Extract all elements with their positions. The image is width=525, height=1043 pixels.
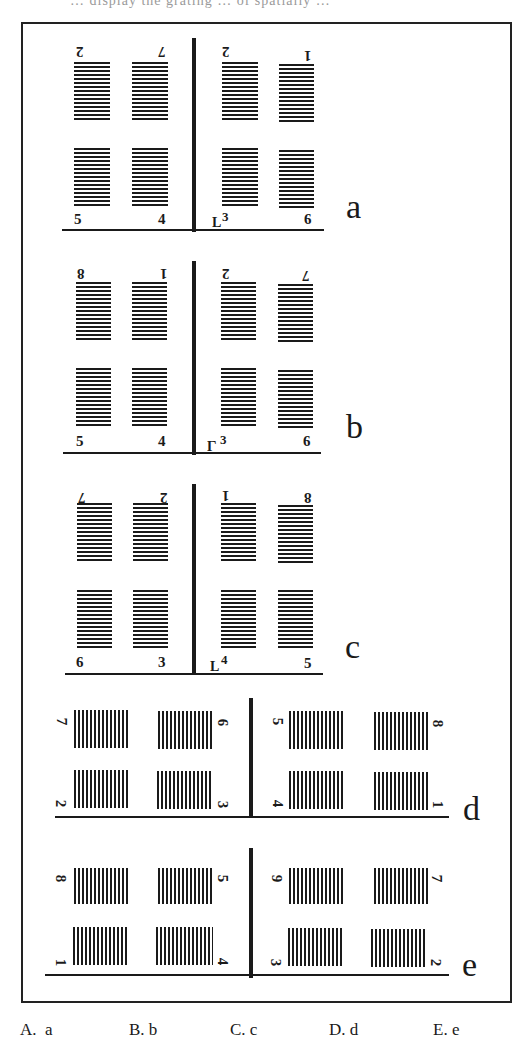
grating-block [374,772,429,810]
bottom-label: 6 [76,655,84,670]
bottom-label: 2 [428,959,443,967]
top-label: 2 [76,44,84,59]
divider-bar [192,261,196,455]
bottom-label: 4 [215,958,230,966]
top-label: 8 [77,266,85,281]
divider-bar [249,698,253,818]
grating-block [222,148,258,206]
top-label: 2 [222,266,230,281]
grating-block [289,868,345,904]
bottom-label: 4 [270,800,285,808]
top-label: 8 [53,875,68,883]
top-label: 1 [222,488,230,503]
option-letter: C. [230,1020,246,1039]
grating-block [278,505,313,563]
option-value: d [350,1020,359,1039]
grating-block [222,62,258,120]
top-label: 1 [304,48,312,63]
option-value: a [45,1020,53,1039]
divider-bar [249,848,253,978]
grating-block [74,770,129,808]
bottom-label: 5 [76,434,84,449]
bottom-label: 4 [221,653,228,666]
grating-block [158,711,214,749]
panel-label-c: c [345,630,360,664]
panel-label-e: e [462,948,477,982]
grating-block [374,712,430,750]
top-label: 8 [430,720,445,728]
bottom-label: 6 [304,212,312,227]
top-label: 7 [158,44,166,59]
grating-block [279,150,314,208]
grating-block [73,927,129,965]
grating-block [288,928,344,966]
orientation-marker: L [210,660,219,674]
grating-block [221,282,256,340]
bottom-label: 1 [53,959,68,967]
grating-block [156,927,213,965]
bottom-label: 5 [74,212,82,227]
bottom-label: 2 [53,800,68,808]
bottom-label: 3 [158,655,166,670]
grating-block [158,868,214,904]
baseline [62,229,324,231]
option-b[interactable]: B. b [129,1020,157,1040]
top-label: 7 [429,875,444,883]
bottom-label: 3 [268,959,283,967]
option-a[interactable]: A. a [20,1020,53,1040]
cut-off-header-text: … display the grating … of spatially … [70,0,510,5]
grating-block [74,710,130,748]
top-label: 8 [304,490,312,505]
orientation-marker: L [207,438,216,452]
grating-block [221,590,256,648]
top-label: 2 [222,44,230,59]
baseline [65,673,323,675]
bottom-label: 6 [303,434,311,449]
baseline [45,974,449,976]
top-label: 1 [160,266,168,281]
grating-block [76,368,111,426]
bottom-label: 5 [304,656,312,671]
option-value: b [149,1020,158,1039]
grating-block [289,771,345,809]
grating-block [76,282,111,340]
grating-block [132,368,167,426]
top-label: 9 [269,875,284,883]
top-label: 6 [215,719,230,727]
option-c[interactable]: C. c [230,1020,257,1040]
grating-block [132,148,168,206]
bottom-label: 3 [215,801,230,809]
option-e[interactable]: E. e [433,1020,459,1040]
panel-label-b: b [346,410,363,444]
divider-bar [192,484,196,674]
panel-label-a: a [346,190,361,224]
bottom-label: 4 [158,212,166,227]
panel-label-d: d [463,792,480,826]
grating-block [74,868,130,904]
grating-block [74,148,110,206]
grating-block [132,282,167,340]
top-label: 5 [215,875,230,883]
divider-bar [192,38,196,232]
bottom-label: 4 [158,434,166,449]
grating-block [132,62,168,120]
grating-block [133,590,168,648]
option-d[interactable]: D. d [329,1020,358,1040]
grating-block [157,771,213,809]
option-letter: E. [433,1020,448,1039]
grating-block [221,503,256,561]
grating-block [133,503,168,561]
orientation-marker: L [212,216,221,230]
option-value: c [250,1020,258,1039]
bottom-label: 3 [222,210,229,223]
option-letter: A. [20,1020,37,1039]
bottom-label: 3 [220,433,227,446]
grating-block [278,370,313,428]
grating-block [289,711,345,749]
grating-block [278,284,313,342]
top-label: 7 [54,718,69,726]
bottom-label: 1 [430,801,445,809]
grating-block [77,590,112,648]
grating-block [279,64,314,122]
option-letter: B. [129,1020,145,1039]
